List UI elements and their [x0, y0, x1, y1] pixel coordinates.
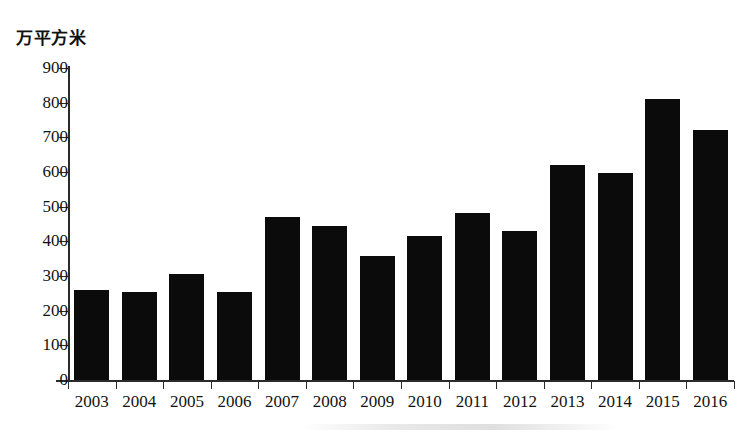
bar-2016: [693, 130, 728, 380]
bar-2005: [169, 274, 204, 380]
x-tick-label-2015: 2015: [639, 392, 687, 412]
x-tick-label-2003: 2003: [68, 392, 116, 412]
x-tick-label-2011: 2011: [449, 392, 497, 412]
bar-2008: [312, 226, 347, 380]
x-tick-mark: [68, 381, 69, 389]
x-tick-mark: [306, 381, 307, 389]
bar-2013: [550, 165, 585, 380]
x-tick-label-2009: 2009: [353, 392, 401, 412]
bar-2004: [122, 292, 157, 380]
x-tick-mark: [116, 381, 117, 389]
x-tick-mark: [211, 381, 212, 389]
x-tick-mark: [401, 381, 402, 389]
bar-2011: [455, 213, 490, 380]
bar-2010: [407, 236, 442, 380]
bar-2009: [360, 256, 395, 380]
x-tick-mark: [496, 381, 497, 389]
x-tick-label-2008: 2008: [306, 392, 354, 412]
x-tick-mark: [258, 381, 259, 389]
x-tick-label-2004: 2004: [116, 392, 164, 412]
x-tick-label-2013: 2013: [544, 392, 592, 412]
x-tick-label-2005: 2005: [163, 392, 211, 412]
x-tick-label-2007: 2007: [258, 392, 306, 412]
x-tick-mark: [163, 381, 164, 389]
x-tick-label-2010: 2010: [401, 392, 449, 412]
bar-2012: [502, 231, 537, 380]
bars-layer: [0, 0, 746, 434]
x-tick-mark: [639, 381, 640, 389]
bar-2015: [645, 99, 680, 380]
x-tick-mark: [686, 381, 687, 389]
x-tick-mark: [544, 381, 545, 389]
x-tick-mark: [591, 381, 592, 389]
bar-2003: [74, 290, 109, 380]
x-tick-mark: [353, 381, 354, 389]
bar-chart-figure: 万平方米 9008007006005004003002001000 200320…: [0, 0, 746, 434]
x-tick-label-2012: 2012: [496, 392, 544, 412]
x-tick-label-2006: 2006: [211, 392, 259, 412]
x-tick-mark: [449, 381, 450, 389]
x-tick-mark: [734, 381, 735, 389]
bar-2007: [265, 217, 300, 380]
bar-2014: [598, 173, 633, 380]
x-tick-label-2014: 2014: [591, 392, 639, 412]
x-tick-label-2016: 2016: [686, 392, 734, 412]
bar-2006: [217, 292, 252, 380]
